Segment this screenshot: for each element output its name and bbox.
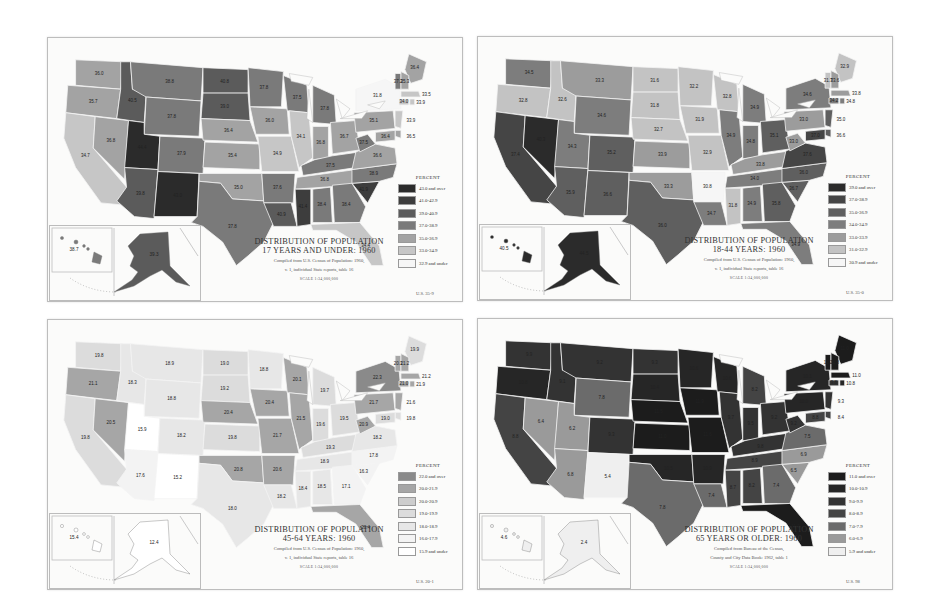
state-value-va: 36.6 xyxy=(373,153,382,158)
map-title-line1: Distribution of Population xyxy=(244,237,394,246)
state-value-wv: 33.0 xyxy=(789,139,798,144)
state-value-ok: 35.0 xyxy=(234,185,243,190)
state-value-ks: 11.0 xyxy=(658,434,667,439)
state-value-nc: 36.0 xyxy=(799,170,808,175)
state-value-oh: 36.7 xyxy=(340,134,349,139)
legend-item: 15.9 and under xyxy=(398,545,458,558)
state-value-oh: 35.1 xyxy=(770,133,779,138)
legend-label: 9.0-9.9 xyxy=(849,499,863,504)
state-value-il: 21.5 xyxy=(297,416,306,421)
map-source-line1: Compiled from U.S. Census of Population:… xyxy=(244,258,394,264)
state-value-nj: 21.6 xyxy=(406,400,415,405)
map-title-line2: 18-44 Years: 1960 xyxy=(674,245,824,254)
state-value-id: 32.6 xyxy=(558,97,567,102)
aleutian-islands xyxy=(70,566,116,580)
state-value-mi: 19.7 xyxy=(320,388,329,393)
state-value-ny: 34.6 xyxy=(803,92,812,97)
state-value-la: 7.4 xyxy=(708,493,715,498)
state-value-il: 34.9 xyxy=(727,133,736,138)
state-value-pa: 33.0 xyxy=(799,117,808,122)
state-value-mn: 10.6 xyxy=(689,366,698,371)
legend-label: 15.9 and under xyxy=(419,549,448,554)
state-value-ga: 7.4 xyxy=(773,483,780,488)
state-ri xyxy=(840,380,845,386)
legend-label: 39.0-40.9 xyxy=(419,211,437,216)
state-value-ri: 21.9 xyxy=(416,382,425,387)
state-value-ut: 44.4 xyxy=(138,145,147,150)
legend-label: 5.9 and under xyxy=(849,549,875,554)
state-value-ga: 17.1 xyxy=(342,484,351,489)
legend-title: PERCENT xyxy=(828,463,888,468)
state-value-ma: 33.8 xyxy=(852,91,861,96)
hawaii-shape xyxy=(490,524,532,552)
state-mi xyxy=(313,85,337,124)
state-mi xyxy=(313,367,337,406)
legend-label: 30.9 and under xyxy=(849,260,878,265)
state-value-de: 8.4 xyxy=(838,415,845,420)
state-value-nv: 20.5 xyxy=(106,420,115,425)
state-value-tn: 34.0 xyxy=(750,176,759,181)
legend-label: 32.9 and under xyxy=(419,261,448,266)
state-value-pa: 10.0 xyxy=(799,399,808,404)
legend-swatch xyxy=(828,534,846,543)
state-value-nd: 9.3 xyxy=(651,360,658,365)
state-value-pa: 21.7 xyxy=(369,400,378,405)
legend-swatch xyxy=(828,195,846,204)
state-value-wi: 20.1 xyxy=(293,377,302,382)
state-value-tx: 7.8 xyxy=(659,505,666,510)
legend-swatch xyxy=(398,234,416,243)
alaska-shape xyxy=(544,520,620,580)
legend-item: 33.0-33.9 xyxy=(828,231,888,244)
state-value-nm: 43.0 xyxy=(173,193,182,198)
state-value-sd: 39.0 xyxy=(220,104,229,109)
legend-label: 33.0-34.9 xyxy=(419,248,437,253)
state-value-wy: 18.8 xyxy=(167,396,176,401)
state-value-ok: 33.3 xyxy=(664,184,673,189)
legend-item: 22.0 and over xyxy=(398,470,458,483)
state-value-ut: 15.9 xyxy=(138,427,147,432)
legend-item: 35.0-36.9 xyxy=(398,232,458,245)
state-value-nc: 17.8 xyxy=(369,453,378,458)
legend-swatch xyxy=(398,534,416,543)
state-value-la: 40.9 xyxy=(277,212,286,217)
map-code: U.S. 98 xyxy=(846,579,860,584)
state-value-ks: 33.9 xyxy=(658,152,667,157)
alaska-value: 44.5 xyxy=(580,251,589,256)
state-value-ny: 10.1 xyxy=(803,374,812,379)
legend-swatch xyxy=(398,509,416,518)
map-panel-45-64: 19.821.119.820.518.318.918.815.918.217.6… xyxy=(47,319,463,590)
state-ma xyxy=(831,372,851,378)
legend-swatch xyxy=(828,245,846,254)
legend-label: 10.0-10.9 xyxy=(849,486,867,491)
map-code: U.S. 35-0 xyxy=(846,290,864,295)
legend-swatch xyxy=(398,209,416,218)
state-value-ca: 37.4 xyxy=(511,152,520,157)
map-source-line2: v. 1, individual State reports, table 16 xyxy=(674,266,824,272)
legend-item: 37.0-38.9 xyxy=(398,220,458,233)
inset-map: 15.4 12.4 xyxy=(50,514,200,588)
state-value-ri: 34.8 xyxy=(846,99,855,104)
legend-label: 6.0-6.9 xyxy=(849,536,863,541)
alaska-hawaii-inset: 4.6 2.4 xyxy=(479,513,631,589)
state-value-az: 6.8 xyxy=(567,472,574,477)
state-value-nh: 33.6 xyxy=(830,78,839,83)
state-value-nm: 15.2 xyxy=(173,475,182,480)
state-value-me: 32.9 xyxy=(840,64,849,69)
map-source-line1: Compiled from U.S. Census of Population:… xyxy=(244,546,394,552)
great-lake xyxy=(766,380,780,400)
legend-label: 43.0 and over xyxy=(419,186,445,191)
alaska-value: 2.4 xyxy=(581,540,588,545)
map-scale: SCALE 1:34,000,000 xyxy=(674,276,824,280)
hawaii-shape xyxy=(60,524,102,552)
map-panel-18-44: 34.532.837.440.332.633.334.634.335.235.9… xyxy=(477,36,893,301)
state-value-nj: 33.9 xyxy=(406,118,415,123)
state-value-wv: 37.5 xyxy=(359,140,368,145)
legend-title: PERCENT xyxy=(398,175,458,180)
legend-item: 32.9 and under xyxy=(398,257,458,270)
state-value-wy: 34.6 xyxy=(597,113,606,118)
map-title-line1: Distribution of Population xyxy=(674,236,824,245)
state-value-wa: 9.9 xyxy=(526,352,533,357)
state-ri xyxy=(410,381,415,387)
hawaii-value: 40.5 xyxy=(500,246,509,251)
state-value-nh: 21.2 xyxy=(400,361,409,366)
